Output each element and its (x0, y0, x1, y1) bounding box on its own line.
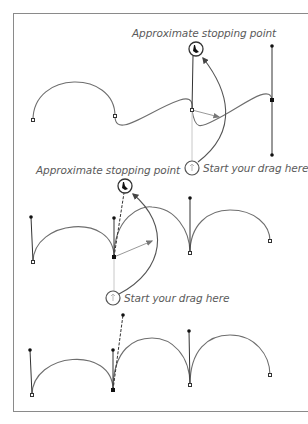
pen-cursor-start-icon (106, 291, 120, 305)
anchor-handle-line (31, 217, 33, 262)
anchor-point-selected[interactable] (111, 388, 115, 392)
anchor-point[interactable] (191, 109, 194, 112)
panel-bottom (28, 313, 271, 396)
direction-arrow (192, 110, 219, 117)
anchor-point-selected[interactable] (112, 255, 116, 259)
handle-point[interactable] (187, 329, 191, 333)
handle-point[interactable] (121, 313, 125, 317)
pen-cursor-start-icon (185, 161, 199, 175)
handle-point[interactable] (29, 215, 33, 219)
anchor-point[interactable] (31, 394, 34, 397)
stopping-point-label: Approximate stopping point (132, 27, 276, 39)
path-curve (32, 335, 270, 395)
dragged-handle-line (114, 193, 124, 257)
panel-top (32, 42, 275, 175)
handle-point[interactable] (112, 216, 116, 220)
path-curve (33, 207, 270, 262)
anchor-point[interactable] (32, 119, 35, 122)
anchor-point[interactable] (114, 115, 117, 118)
panel-middle (29, 179, 271, 305)
start-drag-label: Start your drag here (203, 162, 308, 174)
bezier-path-diagram (0, 0, 308, 424)
stopping-point-label: Approximate stopping point (36, 164, 180, 176)
anchor-point[interactable] (189, 252, 192, 255)
pen-cursor-icon (118, 179, 132, 193)
anchor-point[interactable] (269, 240, 272, 243)
anchor-point[interactable] (189, 384, 192, 387)
drag-motion-arc (119, 194, 158, 294)
anchor-point[interactable] (32, 261, 35, 264)
handle-point[interactable] (270, 153, 274, 157)
adjusted-handle-line (113, 315, 123, 390)
anchor-handle-line (30, 350, 32, 395)
handle-point[interactable] (28, 348, 32, 352)
dragged-handle-line (192, 56, 193, 110)
direction-arrow (114, 241, 152, 257)
handle-point[interactable] (270, 44, 274, 48)
handle-point[interactable] (111, 348, 115, 352)
start-drag-label: Start your drag here (124, 292, 229, 304)
pen-cursor-icon (189, 42, 203, 56)
anchor-point-selected[interactable] (270, 98, 274, 102)
drag-motion-arc (198, 58, 226, 162)
path-curve (33, 82, 272, 126)
anchor-point[interactable] (269, 374, 272, 377)
handle-point[interactable] (188, 196, 192, 200)
